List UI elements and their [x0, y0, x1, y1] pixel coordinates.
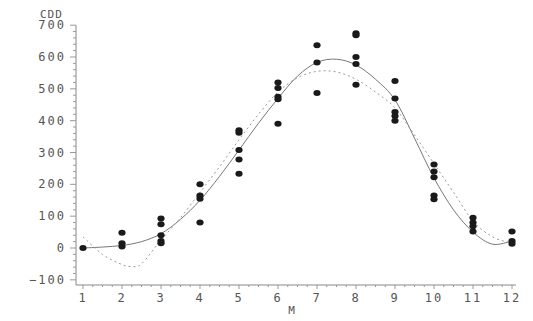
x-tick-label: 7	[312, 291, 321, 305]
data-point	[118, 230, 125, 236]
data-point	[157, 240, 164, 246]
data-point	[274, 96, 281, 102]
x-tick-label: 5	[234, 291, 243, 305]
data-point	[235, 147, 242, 153]
data-point	[79, 245, 86, 251]
y-axis: −1000100200300400500600700	[29, 18, 76, 287]
data-point	[391, 95, 398, 101]
data-point	[508, 241, 515, 247]
data-point	[196, 196, 203, 202]
x-tick-label: 2	[117, 291, 126, 305]
x-tick-label: 11	[464, 291, 482, 305]
y-tick-label: 400	[38, 114, 66, 128]
data-point	[430, 169, 437, 175]
data-point	[352, 54, 359, 60]
y-tick-label: 0	[57, 241, 66, 255]
data-point	[157, 221, 164, 227]
data-point	[508, 228, 515, 234]
data-point	[313, 42, 320, 48]
fit-curves	[83, 59, 512, 267]
data-point	[391, 118, 398, 124]
data-point	[196, 181, 203, 187]
data-point	[352, 82, 359, 88]
y-tick-label: 200	[38, 177, 66, 191]
data-point	[157, 232, 164, 238]
data-point	[469, 228, 476, 234]
data-point	[196, 220, 203, 226]
data-points	[79, 30, 515, 251]
data-point	[235, 171, 242, 177]
data-point	[274, 79, 281, 85]
x-tick-label: 8	[351, 291, 360, 305]
data-point	[430, 196, 437, 202]
data-point	[352, 61, 359, 67]
data-point	[313, 90, 320, 96]
data-point	[352, 32, 359, 38]
y-tick-label: 600	[38, 50, 66, 64]
x-tick-label: 6	[273, 291, 282, 305]
data-point	[313, 59, 320, 65]
y-tick-label: 300	[38, 146, 66, 160]
y-tick-label: −100	[29, 273, 66, 287]
cdd-by-month-chart: −1000100200300400500600700 1234567891011…	[0, 0, 533, 321]
x-tick-label: 10	[425, 291, 443, 305]
x-tick-label: 4	[195, 291, 204, 305]
y-tick-label: 500	[38, 82, 66, 96]
fit-dashed-curve	[83, 71, 512, 267]
x-axis-title: M	[288, 304, 296, 317]
data-point	[274, 85, 281, 91]
data-point	[391, 78, 398, 84]
x-tick-label: 3	[156, 291, 165, 305]
x-tick-label: 12	[503, 291, 521, 305]
x-axis: 123456789101112	[76, 285, 521, 305]
data-point	[430, 174, 437, 180]
fit-solid-curve	[83, 59, 512, 248]
x-tick-label: 1	[78, 291, 87, 305]
data-point	[274, 121, 281, 127]
data-point	[235, 130, 242, 136]
y-axis-title: CDD	[40, 8, 63, 21]
data-point	[157, 215, 164, 221]
x-tick-label: 9	[390, 291, 399, 305]
data-point	[118, 243, 125, 249]
y-tick-label: 100	[38, 209, 66, 223]
data-point	[430, 162, 437, 168]
data-point	[235, 157, 242, 163]
